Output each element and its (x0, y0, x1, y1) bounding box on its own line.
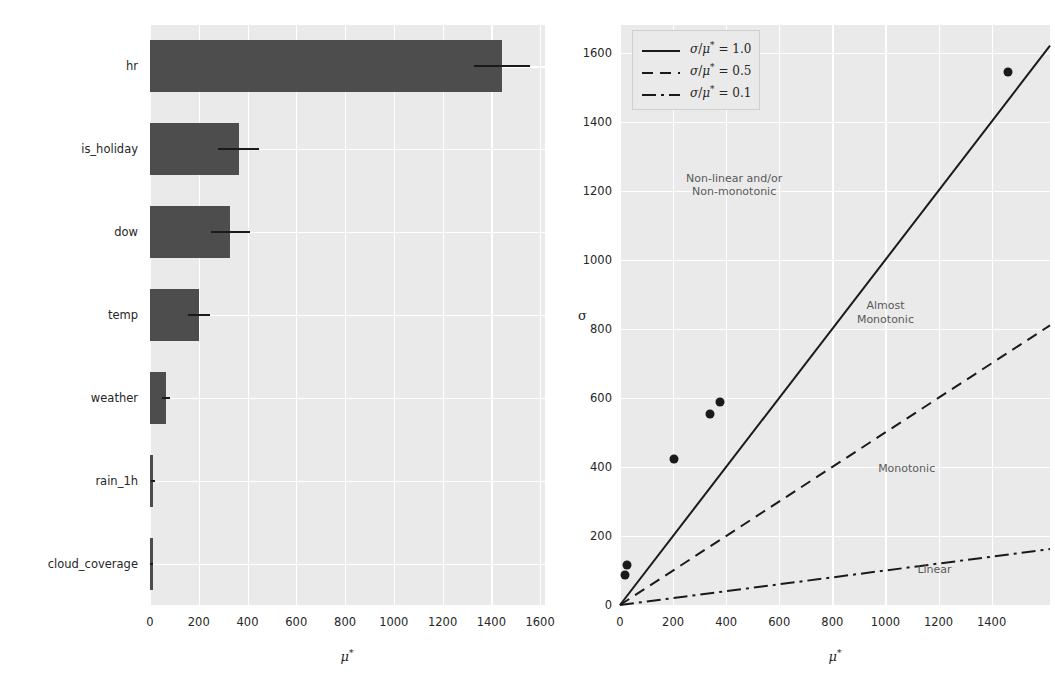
right-gridline-horizontal (620, 605, 1050, 606)
right-ytick-label: 800 (560, 322, 612, 336)
left-xaxis-title: μ* (341, 648, 354, 664)
left-xtick-label: 1600 (525, 615, 554, 629)
left-xtick-label: 1200 (428, 615, 457, 629)
scatter-point[interactable] (623, 561, 632, 570)
legend-row-dashdot[interactable]: σ/μ* = 0.1 (641, 81, 751, 103)
left-xtick-label: 800 (334, 615, 356, 629)
legend-label: σ/μ* = 0.1 (690, 84, 751, 100)
right-xtick-label: 600 (768, 615, 790, 629)
right-gridline-vertical (832, 25, 833, 605)
right-gridline-vertical (620, 25, 621, 605)
legend-line-swatch-dashed (641, 64, 681, 76)
right-gridline-vertical (992, 25, 993, 605)
right-gridline-vertical (726, 25, 727, 605)
right-ytick-label: 600 (560, 391, 612, 405)
right-xtick-label: 1400 (977, 615, 1006, 629)
right-xtick-label: 0 (616, 615, 623, 629)
left-xtick-label: 600 (285, 615, 307, 629)
right-ytick-label: 1000 (560, 253, 612, 267)
legend-label: σ/μ* = 1.0 (690, 40, 751, 56)
region-annotation: Non-linear and/or Non-monotonic (686, 172, 782, 200)
right-gridline-vertical (779, 25, 780, 605)
scatter-point[interactable] (620, 570, 629, 579)
right-gridline-horizontal (620, 122, 1050, 123)
left-xtick-label: 400 (237, 615, 259, 629)
category-label-temp: temp (0, 308, 138, 322)
right-ytick-label: 1600 (560, 46, 612, 60)
errorbar-cloud_coverage (150, 563, 153, 565)
right-scatter-panel: 0200400600800100012001400020040060080010… (560, 0, 1055, 698)
legend-line-swatch-solid (641, 42, 681, 54)
right-ytick-label: 0 (560, 598, 612, 612)
scatter-point[interactable] (1003, 67, 1012, 76)
region-annotation: Monotonic (878, 462, 935, 476)
errorbar-hr (474, 65, 530, 67)
right-xtick-label: 1200 (924, 615, 953, 629)
category-label-weather: weather (0, 391, 138, 405)
right-xaxis-title: μ* (829, 648, 842, 664)
legend-label: σ/μ* = 0.5 (690, 62, 751, 78)
right-xtick-label: 800 (821, 615, 843, 629)
right-gridline-horizontal (620, 329, 1050, 330)
right-yaxis-title: σ (578, 308, 587, 323)
right-gridline-horizontal (620, 536, 1050, 537)
right-gridline-vertical (939, 25, 940, 605)
right-xaxis-star: * (837, 648, 842, 658)
region-annotation: Almost Monotonic (857, 300, 914, 328)
reference-line-legend[interactable]: σ/μ* = 1.0σ/μ* = 0.5σ/μ* = 0.1 (632, 30, 760, 110)
figure-canvas: 02004006008001000120014001600hris_holida… (0, 0, 1055, 698)
right-ytick-label: 200 (560, 529, 612, 543)
errorbar-weather (162, 397, 171, 399)
left-gridline-horizontal (150, 564, 545, 565)
category-label-hr: hr (0, 59, 138, 73)
reference-line-dashdot (620, 549, 1050, 605)
left-xtick-label: 1400 (477, 615, 506, 629)
legend-line-swatch-dashdot (641, 86, 681, 98)
right-gridline-horizontal (620, 260, 1050, 261)
legend-row-dashed[interactable]: σ/μ* = 0.5 (641, 59, 751, 81)
right-ytick-label: 400 (560, 460, 612, 474)
legend-row-solid[interactable]: σ/μ* = 1.0 (641, 37, 751, 59)
right-ytick-label: 1200 (560, 184, 612, 198)
category-label-dow: dow (0, 225, 138, 239)
region-annotation: Linear (917, 564, 951, 578)
right-gridline-vertical (673, 25, 674, 605)
right-gridline-horizontal (620, 191, 1050, 192)
errorbar-rain_1h (151, 480, 155, 482)
left-bar-chart-panel: 02004006008001000120014001600hris_holida… (0, 0, 560, 698)
left-gridline-horizontal (150, 398, 545, 399)
right-ytick-label: 1400 (560, 115, 612, 129)
right-xtick-label: 200 (662, 615, 684, 629)
left-plot-overlay: 02004006008001000120014001600hris_holida… (0, 0, 560, 698)
category-label-cloud_coverage: cloud_coverage (0, 557, 138, 571)
scatter-point[interactable] (715, 398, 724, 407)
category-label-rain_1h: rain_1h (0, 474, 138, 488)
scatter-point[interactable] (705, 410, 714, 419)
left-xtick-label: 1000 (379, 615, 408, 629)
right-xtick-label: 400 (715, 615, 737, 629)
reference-line-solid (620, 46, 1050, 605)
right-gridline-horizontal (620, 398, 1050, 399)
left-xtick-label: 200 (188, 615, 210, 629)
bar-hr[interactable] (150, 40, 502, 92)
left-xtick-label: 0 (146, 615, 153, 629)
errorbar-is_holiday (218, 148, 259, 150)
reference-line-dashed (620, 325, 1050, 605)
left-gridline-horizontal (150, 481, 545, 482)
errorbar-dow (211, 231, 250, 233)
left-xaxis-star: * (349, 648, 354, 658)
errorbar-temp (188, 314, 210, 316)
right-gridline-horizontal (620, 467, 1050, 468)
scatter-point[interactable] (669, 454, 678, 463)
category-label-is_holiday: is_holiday (0, 142, 138, 156)
right-xtick-label: 1000 (871, 615, 900, 629)
